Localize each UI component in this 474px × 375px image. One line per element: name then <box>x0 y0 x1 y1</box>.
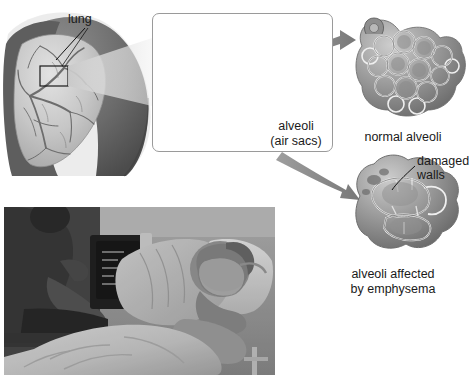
caption-emphysema-line2: by emphysema <box>332 283 454 296</box>
normal-alveoli-artwork <box>356 18 465 116</box>
caption-normal-alveoli: normal alveoli <box>348 131 458 144</box>
arrow-to-emphysema-alveoli <box>276 152 360 200</box>
label-alveoli: alveoli <box>258 120 334 133</box>
label-air-sacs: (air sacs) <box>258 135 334 148</box>
label-lung: lung <box>68 13 92 26</box>
label-damaged: damaged <box>417 155 469 168</box>
torso-lung-panel <box>3 12 152 176</box>
patient-photograph <box>4 207 275 375</box>
caption-emphysema-line1: alveoli affected <box>332 268 454 281</box>
label-walls: walls <box>417 169 445 182</box>
figure-root: lung alveoli (air sacs) normal alveoli d… <box>0 0 474 375</box>
